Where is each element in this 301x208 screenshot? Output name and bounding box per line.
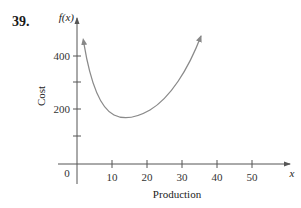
y-tick-label-400: 400 <box>54 50 71 62</box>
cost-chart: 0 10 20 30 40 50 200 400 f(x) x Producti… <box>0 0 301 208</box>
y-axis-name: f(x) <box>59 11 75 24</box>
x-tick-label-20: 20 <box>142 171 154 183</box>
y-tick-label-200: 200 <box>54 103 71 115</box>
x-tick-label-50: 50 <box>247 171 259 183</box>
x-tick-label-10: 10 <box>107 171 119 183</box>
x-tick-label-0: 0 <box>64 167 70 179</box>
x-tick-label-30: 30 <box>177 171 189 183</box>
x-axis-title: Production <box>153 188 202 200</box>
cost-curve <box>84 36 201 118</box>
x-tick-label-40: 40 <box>212 171 224 183</box>
y-axis-title: Cost <box>35 86 47 106</box>
x-axis-name: x <box>289 167 295 179</box>
